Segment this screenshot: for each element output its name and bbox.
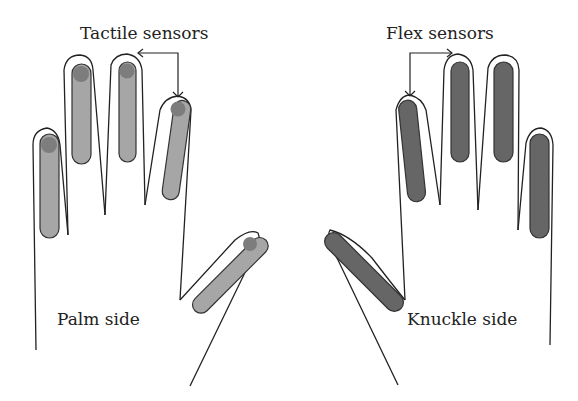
flex-sensor-middle <box>451 62 469 162</box>
tactile-sensors-group <box>40 62 272 317</box>
flex-sensor-thumb <box>321 229 407 315</box>
flex-pointer <box>405 49 452 96</box>
tactile-sensor-thumb <box>189 234 272 317</box>
knuckle-side-label: Knuckle side <box>407 309 517 329</box>
flex-sensors-label: Flex sensors <box>386 23 494 43</box>
flex-sensors-group <box>321 62 549 315</box>
flex-sensor-ring <box>494 62 513 162</box>
tactile-sensors-label: Tactile sensors <box>80 23 208 43</box>
palm-side-label: Palm side <box>57 309 140 329</box>
knuckle-side-hand <box>329 54 553 385</box>
palm-side-hand <box>33 54 259 386</box>
flex-sensor-index <box>398 99 427 202</box>
glove-diagram <box>0 0 578 401</box>
flex-sensor-little <box>530 134 549 238</box>
tactile-pointer <box>138 49 183 97</box>
